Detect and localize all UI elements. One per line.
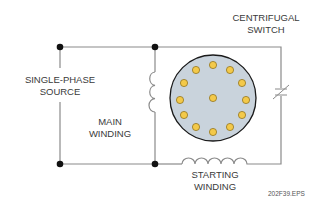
rotor-conductor: [209, 61, 216, 68]
label-switch-line1: CENTRIFUGAL: [226, 12, 306, 24]
main-winding-coil-icon: [149, 72, 155, 112]
label-starting-winding-line2: WINDING: [180, 181, 250, 193]
label-main-winding-line1: MAIN: [80, 116, 140, 128]
label-starting-winding-line1: STARTING: [180, 169, 250, 181]
label-switch-line2: SWITCH: [226, 24, 306, 36]
rotor-conductor: [209, 128, 216, 135]
rotor-conductor: [192, 123, 199, 130]
label-starting-winding: STARTING WINDING: [180, 169, 250, 193]
junction-nodes: [57, 44, 159, 168]
rotor-conductor: [226, 123, 233, 130]
rotor-conductor: [242, 96, 249, 103]
rotor-conductor: [176, 96, 183, 103]
figure-id: 202F39.EPS: [268, 190, 305, 197]
rotor: [170, 55, 256, 141]
rotor-conductor: [180, 111, 187, 118]
junction-node: [152, 161, 159, 168]
junction-node: [152, 44, 159, 51]
label-centrifugal-switch: CENTRIFUGAL SWITCH: [226, 12, 306, 36]
rotor-conductor: [226, 66, 233, 73]
rotor-conductor: [192, 66, 199, 73]
starting-winding-coil-icon: [182, 158, 260, 164]
label-source-line1: SINGLE-PHASE: [16, 74, 104, 86]
rotor-conductor-center: [209, 94, 216, 101]
rotor-conductor: [180, 79, 187, 86]
label-source-line2: SOURCE: [16, 86, 104, 98]
junction-node: [57, 44, 64, 51]
label-single-phase-source: SINGLE-PHASE SOURCE: [16, 74, 104, 98]
label-main-winding-line2: WINDING: [80, 128, 140, 140]
rotor-conductor: [238, 111, 245, 118]
rotor-conductor: [238, 79, 245, 86]
junction-node: [57, 161, 64, 168]
label-main-winding: MAIN WINDING: [80, 116, 140, 140]
